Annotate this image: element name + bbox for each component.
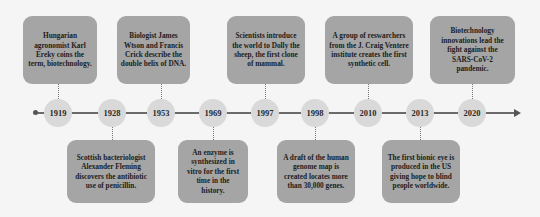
connector-1997: [265, 84, 266, 99]
connector-1919: [58, 84, 59, 99]
year-node-2013: 2013: [406, 99, 434, 127]
connector-1953: [161, 84, 162, 99]
event-box-1998: A draft of the human genome map is creat…: [277, 140, 355, 203]
connector-2010: [368, 84, 369, 99]
timeline-start-dot: [33, 110, 38, 115]
event-text-2013: The first bionic eye is produced in the …: [386, 153, 456, 191]
year-node-1953: 1953: [147, 99, 175, 127]
year-node-2020: 2020: [458, 99, 486, 127]
event-text-2010: A group of reswarchers from the J. Craig…: [329, 31, 409, 69]
event-box-2020: Biotechnology innovations lead the fight…: [430, 16, 515, 84]
year-node-1969: 1969: [199, 99, 227, 127]
event-box-1969: An enzyme is synthesized in vitro for th…: [178, 140, 248, 203]
event-text-1997: Scientists introduce the world to Dolly …: [231, 31, 301, 69]
timeline-diagram: 1919 1928 1953 1969 1997 1998 2010 2013 …: [0, 0, 540, 217]
year-node-2010: 2010: [354, 99, 382, 127]
arrow-right-icon: [514, 109, 521, 117]
event-box-1928: Scottish bacteriologist Alexander Flemin…: [67, 140, 155, 203]
event-box-2013: The first bionic eye is produced in the …: [382, 140, 460, 203]
event-text-1928: Scottish bacteriologist Alexander Flemin…: [71, 153, 151, 191]
event-text-1969: An enzyme is synthesized in vitro for th…: [184, 148, 242, 195]
connector-1969: [213, 127, 214, 140]
event-box-2010: A group of reswarchers from the J. Craig…: [325, 16, 413, 84]
event-text-1919: Hungarian agronomist Karl Ereky coins th…: [27, 31, 93, 69]
event-text-2020: Biotechnology innovations lead the fight…: [438, 26, 507, 73]
connector-2013: [420, 127, 421, 140]
year-node-1928: 1928: [98, 99, 126, 127]
event-text-1953: Biologist James Wtson and Francis Crick …: [119, 31, 188, 69]
connector-1928: [112, 127, 113, 140]
connector-1998: [315, 127, 316, 140]
connector-2020: [472, 84, 473, 99]
event-text-1998: A draft of the human genome map is creat…: [281, 153, 351, 191]
event-box-1919: Hungarian agronomist Karl Ereky coins th…: [23, 16, 97, 84]
year-node-1997: 1997: [251, 99, 279, 127]
event-box-1997: Scientists introduce the world to Dolly …: [227, 16, 305, 84]
year-node-1919: 1919: [44, 99, 72, 127]
year-node-1998: 1998: [301, 99, 329, 127]
event-box-1953: Biologist James Wtson and Francis Crick …: [117, 16, 190, 84]
